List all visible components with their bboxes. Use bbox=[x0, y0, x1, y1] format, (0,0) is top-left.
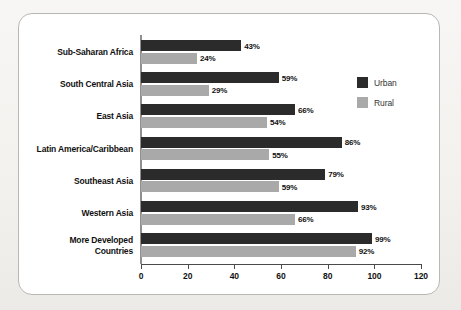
bar-rural bbox=[141, 181, 279, 192]
bar-rural bbox=[141, 117, 267, 128]
category-label: East Asia bbox=[96, 111, 133, 122]
x-axis-tick bbox=[421, 264, 422, 269]
legend-item-urban[interactable]: Urban bbox=[357, 77, 437, 88]
category-label: Latin America/Caribbean bbox=[37, 144, 133, 155]
chart-plot-area: 020406080100120 43%24%59%29%66%54%86%55%… bbox=[19, 14, 439, 294]
bar-value-label: 59% bbox=[282, 74, 297, 83]
x-axis-tick bbox=[234, 264, 235, 269]
chart-legend: Urban Rural bbox=[357, 77, 437, 117]
bar-value-label: 93% bbox=[361, 203, 376, 212]
x-axis-tick-label: 0 bbox=[139, 271, 144, 281]
bar-rural bbox=[141, 53, 197, 64]
legend-label-rural: Rural bbox=[374, 98, 394, 108]
category-label: South Central Asia bbox=[60, 79, 133, 90]
category-label: Southeast Asia bbox=[74, 176, 133, 187]
bar-rural bbox=[141, 149, 269, 160]
x-axis-tick bbox=[188, 264, 189, 269]
x-axis-tick bbox=[281, 264, 282, 269]
bar-value-label: 66% bbox=[298, 106, 313, 115]
bar-value-label: 99% bbox=[375, 235, 390, 244]
bar-urban bbox=[141, 104, 295, 115]
bar-rural bbox=[141, 246, 356, 257]
x-axis-tick bbox=[328, 264, 329, 269]
category-label: Western Asia bbox=[81, 208, 133, 219]
legend-swatch-urban-icon bbox=[357, 77, 368, 88]
chart-card: 020406080100120 43%24%59%29%66%54%86%55%… bbox=[18, 13, 440, 295]
bar-value-label: 43% bbox=[244, 42, 259, 51]
bar-urban bbox=[141, 233, 372, 244]
x-axis-tick-label: 40 bbox=[230, 271, 239, 281]
bar-urban bbox=[141, 72, 279, 83]
bar-value-label: 86% bbox=[345, 138, 360, 147]
bar-rural bbox=[141, 214, 295, 225]
bar-urban bbox=[141, 137, 342, 148]
bar-urban bbox=[141, 201, 358, 212]
bar-value-label: 59% bbox=[282, 183, 297, 192]
x-axis-tick-label: 60 bbox=[276, 271, 285, 281]
x-axis-tick bbox=[374, 264, 375, 269]
bar-value-label: 54% bbox=[270, 118, 285, 127]
bar-urban bbox=[141, 169, 325, 180]
bar-value-label: 55% bbox=[272, 151, 287, 160]
bar-rural bbox=[141, 85, 209, 96]
legend-label-urban: Urban bbox=[374, 78, 397, 88]
x-axis-tick-label: 120 bbox=[414, 271, 428, 281]
x-axis-tick bbox=[141, 264, 142, 269]
bar-value-label: 29% bbox=[212, 86, 227, 95]
x-axis-tick-label: 80 bbox=[323, 271, 332, 281]
bar-value-label: 66% bbox=[298, 215, 313, 224]
legend-item-rural[interactable]: Rural bbox=[357, 97, 437, 108]
bar-value-label: 92% bbox=[359, 247, 374, 256]
category-label: Sub-Saharan Africa bbox=[57, 47, 133, 58]
x-axis-tick-label: 20 bbox=[183, 271, 192, 281]
category-label: More Developed Countries bbox=[69, 235, 133, 256]
legend-swatch-rural-icon bbox=[357, 97, 368, 108]
x-axis-tick-label: 100 bbox=[367, 271, 381, 281]
bar-value-label: 24% bbox=[200, 54, 215, 63]
bar-urban bbox=[141, 40, 241, 51]
bar-value-label: 79% bbox=[328, 170, 343, 179]
